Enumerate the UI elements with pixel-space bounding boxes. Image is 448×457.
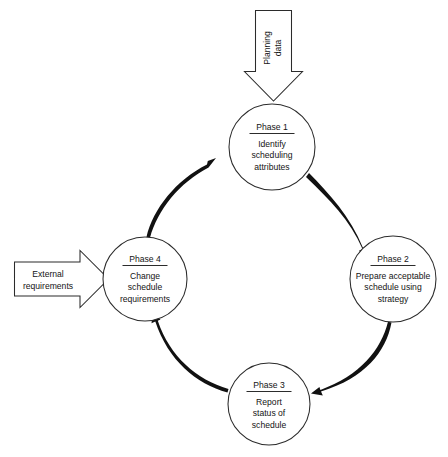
diagram-canvas: Planning data External requirements Phas… [0,0,448,457]
phase-node-phase-2[interactable]: Phase 2 Prepare acceptable schedule usin… [350,236,436,322]
phase-3-title: Phase 3 [253,380,285,390]
phase-4-line1: Change [130,271,160,281]
phase-3-line1: Report [256,397,282,407]
phase-1-line2: scheduling [251,150,292,160]
phase-1-line3: attributes [254,162,289,172]
phase-2-title: Phase 2 [377,254,409,264]
phase-4-title: Phase 4 [129,254,161,264]
phase-1-line1: Identify [258,139,286,149]
planning-data-line2: data [273,39,283,56]
phase-4-line3: requirements [120,294,170,304]
phase-4-line2: schedule [128,282,163,292]
phase-3-line3: schedule [252,420,287,430]
phase-2-line1: Prepare acceptable [356,271,431,281]
phase-2-line2: schedule using [364,282,422,292]
flow-arrow-phase1-to-phase2 [306,173,366,258]
flow-arrow-phase2-to-phase3 [311,322,392,396]
input-arrow-external-requirements [15,251,109,308]
phase-node-phase-4[interactable]: Phase 4 Change schedule requirements [103,237,187,321]
phase-2-line3: strategy [378,294,409,304]
phase-3-line2: status of [253,408,286,418]
planning-data-line1: Planning [262,31,272,65]
phase-node-phase-1[interactable]: Phase 1 Identify scheduling attributes [229,104,315,190]
flow-arrow-phase3-to-phase4 [152,313,229,393]
cycle-diagram: Planning data External requirements Phas… [0,0,448,457]
flow-arrow-phase4-to-phase1 [147,158,217,238]
phase-node-phase-3[interactable]: Phase 3 Report status of schedule [228,363,310,445]
external-requirements-line1: External [32,269,64,279]
phase-1-title: Phase 1 [256,122,288,132]
external-requirements-line2: requirements [23,281,73,291]
